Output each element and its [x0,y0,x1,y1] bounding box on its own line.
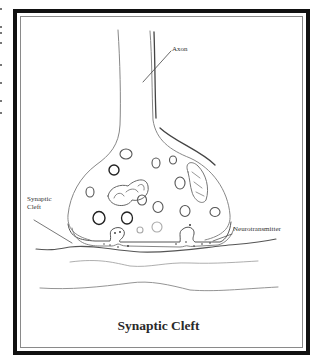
mitochondrion-right [187,163,208,203]
axon-label-pointer [143,51,171,82]
axon-label: Axon [172,45,188,53]
synaptic-cleft-label-line1: Synaptic [27,195,52,203]
synaptic-cleft-label-pointer [34,220,72,243]
synaptic-cleft-label-line2: Cleft [27,203,52,211]
synapse-drawing [0,0,317,362]
synaptic-vesicles [86,149,220,233]
mitochondrion-left [108,180,148,206]
figure-caption: Synaptic Cleft [0,318,317,334]
presynaptic-membrane [68,222,234,247]
axon-shaft [68,30,230,240]
synaptic-cleft-label: Synaptic Cleft [27,195,52,211]
neurotransmitter-label: Neurotransmitter [233,225,281,233]
